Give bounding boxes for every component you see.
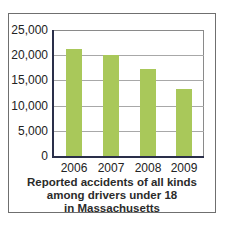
bar-2006 [66,49,82,156]
caption-line-1: Reported accidents of all kinds [8,176,216,189]
y-tick-label: 0 [0,150,48,162]
y-axis [52,30,54,157]
y-tick-label: 20,000 [0,49,48,61]
caption-line-3: in Massachusetts [8,202,216,215]
x-tick-label: 2009 [164,161,204,175]
y-tick-label: 10,000 [0,100,48,112]
y-tick-label: 25,000 [0,24,48,36]
y-tick-label: 15,000 [0,74,48,86]
bar-2007 [103,55,119,156]
x-tick-label: 2008 [128,161,168,175]
x-tick-label: 2006 [54,161,94,175]
x-tick-label: 2007 [91,161,131,175]
y-tick-label: 5,000 [0,125,48,137]
caption-line-2: among drivers under 18 [8,189,216,202]
bar-2009 [176,89,192,156]
bar-2008 [140,69,156,156]
chart-caption: Reported accidents of all kinds among dr… [8,176,216,215]
x-axis [52,156,204,158]
